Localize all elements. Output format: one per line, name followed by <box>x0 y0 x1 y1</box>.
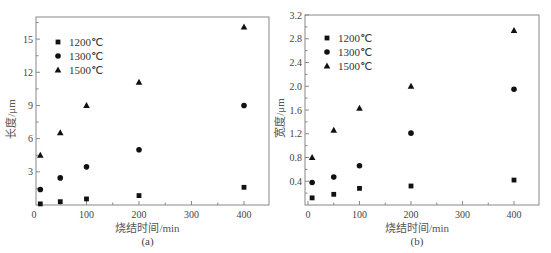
y-tick-label: 2.8 <box>290 33 303 44</box>
series-1300C <box>309 86 516 185</box>
y-tick-label: 3.2 <box>290 10 303 21</box>
x-tick-label: 200 <box>404 209 419 220</box>
legend-label: 1300℃ <box>338 46 372 58</box>
x-tick-label: 400 <box>507 209 522 220</box>
data-point-circle <box>511 86 517 92</box>
legend: 1200℃1300℃1500℃ <box>55 36 103 76</box>
data-point-square <box>84 197 89 202</box>
y-tick-label: 9 <box>28 100 33 111</box>
chart-panel-b: 01002003004000.40.81.21.62.02.42.83.2烧结时… <box>273 10 539 249</box>
data-point-triangle <box>83 102 90 108</box>
x-tick-label: 100 <box>352 209 367 220</box>
data-point-circle <box>357 163 363 169</box>
data-point-triangle <box>57 129 64 135</box>
y-tick-label: 15 <box>23 34 33 45</box>
data-point-circle <box>241 103 247 109</box>
x-axis-label: 烧结时间/min <box>385 222 450 234</box>
data-point-square <box>331 192 336 197</box>
y-tick-label: 3 <box>28 166 33 177</box>
y-tick-label: 0.4 <box>290 176 303 187</box>
y-tick-label: 6 <box>28 133 33 144</box>
legend-label: 1500℃ <box>69 64 103 76</box>
x-tick-label: 100 <box>79 209 94 220</box>
legend-circle-icon <box>55 53 61 59</box>
series-1200C <box>310 178 517 201</box>
data-point-circle <box>331 174 337 180</box>
x-tick-label: 400 <box>237 209 252 220</box>
figure: 01002003004003691215烧结时间/min长度/μm(a)1200… <box>0 0 551 253</box>
panel-label: (b) <box>411 235 424 248</box>
legend: 1200℃1300℃1500℃ <box>324 32 372 72</box>
data-point-circle <box>408 130 414 136</box>
data-point-square <box>357 186 362 191</box>
y-tick-label: 1.6 <box>290 105 303 116</box>
legend-label: 1500℃ <box>338 60 372 72</box>
x-tick-label: 0 <box>306 209 311 220</box>
y-axis-label: 宽度/μm <box>273 98 286 138</box>
x-tick-label: 300 <box>184 209 199 220</box>
y-tick-label: 1.2 <box>290 128 303 139</box>
data-point-triangle <box>136 79 143 85</box>
data-point-circle <box>84 164 90 170</box>
data-point-circle <box>38 187 44 193</box>
legend-triangle-icon <box>324 63 331 69</box>
data-point-square <box>137 193 142 198</box>
legend-label: 1300℃ <box>69 50 103 62</box>
legend-square-icon <box>325 36 330 41</box>
legend-square-icon <box>56 40 61 45</box>
data-point-triangle <box>356 105 363 111</box>
x-tick-label: 200 <box>132 209 147 220</box>
data-point-square <box>242 185 247 190</box>
legend-label: 1200℃ <box>338 32 372 44</box>
panel-label: (a) <box>141 235 154 248</box>
data-point-square <box>38 201 43 206</box>
legend-triangle-icon <box>55 67 62 73</box>
chart-panel-a: 01002003004003691215烧结时间/min长度/μm(a)1200… <box>4 17 269 248</box>
y-tick-label: 2.4 <box>290 57 303 68</box>
y-tick-label: 12 <box>23 67 33 78</box>
data-point-circle <box>309 180 315 186</box>
data-point-square <box>310 195 315 200</box>
data-point-triangle <box>241 24 248 30</box>
data-point-circle <box>57 175 63 181</box>
data-point-circle <box>136 147 142 153</box>
x-tick-label: 0 <box>32 209 37 220</box>
x-axis-label: 烧结时间/min <box>115 222 180 234</box>
data-point-triangle <box>408 83 415 89</box>
series-1300C <box>38 103 247 193</box>
data-point-triangle <box>511 27 518 33</box>
data-point-triangle <box>309 154 316 160</box>
y-axis-label: 长度/μm <box>4 99 17 139</box>
legend-circle-icon <box>324 49 330 55</box>
data-point-triangle <box>330 127 337 133</box>
y-tick-label: 0.8 <box>290 152 303 163</box>
data-point-square <box>58 199 63 204</box>
data-point-square <box>409 184 414 189</box>
legend-label: 1200℃ <box>69 36 103 48</box>
data-point-square <box>512 178 517 183</box>
y-tick-label: 2.0 <box>290 81 303 92</box>
x-tick-label: 300 <box>455 209 470 220</box>
series-1200C <box>38 185 247 206</box>
